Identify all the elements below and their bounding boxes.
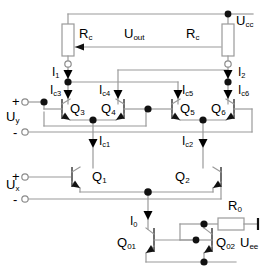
symbol-q5-collector-lead — [172, 99, 180, 104]
arrow-ic6 — [224, 90, 233, 99]
label-uy-plus: + — [12, 95, 20, 108]
terminal-ux-minus — [22, 196, 28, 202]
junction-tail-node — [144, 188, 152, 196]
label-q2: Q2 — [175, 170, 190, 185]
resistor-r0-body — [218, 218, 244, 230]
symbol-q6-collector-lead — [226, 99, 234, 104]
label-uy: Uy — [6, 110, 19, 125]
junction-base-bias — [193, 237, 200, 244]
arrow-ic3 — [64, 90, 73, 99]
junction-bottom-rail — [200, 258, 207, 265]
symbol-q02-collector-lead — [204, 228, 212, 234]
label-uout: Uout — [124, 27, 145, 42]
terminal-rc-left-tap — [65, 61, 71, 67]
label-q01: Q01 — [117, 236, 136, 251]
label-rc-left: Rc — [79, 27, 92, 42]
resistor-rc-left-body — [62, 24, 74, 56]
label-q1: Q1 — [92, 170, 107, 185]
symbol-q1-collector-lead — [72, 167, 80, 172]
junction-q5q6-emitter — [199, 116, 206, 123]
label-i1: I1 — [52, 66, 59, 79]
circuit-diagram: Ucc Rc Rc Uout I1 I2 Ic3 Ic4 Ic5 Ic6 Q3 … — [0, 0, 267, 275]
label-uee: Uee — [240, 236, 258, 251]
junction-q02-collector — [200, 220, 207, 227]
junction-ucc — [225, 11, 232, 18]
junction-q3q4-emitter — [89, 116, 96, 123]
junction-uy-plus-node — [40, 98, 47, 105]
label-q6: Q6 — [211, 102, 226, 117]
terminal-rc-right-tap — [225, 61, 231, 67]
arrow-i2 — [224, 70, 233, 79]
label-ic2: Ic2 — [182, 135, 193, 148]
label-ic1: Ic1 — [99, 135, 110, 148]
label-ux: Ux — [6, 178, 19, 193]
symbol-q4-collector-lead — [116, 99, 124, 104]
label-ucc: Ucc — [236, 14, 253, 29]
label-q02: Q02 — [216, 236, 235, 251]
arrow-ic4 — [114, 90, 123, 99]
junction-i1-node — [64, 78, 71, 85]
label-ic6: Ic6 — [238, 84, 249, 97]
arrow-uout — [75, 44, 84, 51]
label-q3: Q3 — [70, 102, 85, 117]
symbol-q2-collector-lead — [213, 167, 221, 172]
arrow-ic1 — [89, 139, 98, 148]
label-rc-right: Rc — [186, 27, 199, 42]
arrow-ic2 — [199, 139, 208, 148]
label-ic5: Ic5 — [182, 84, 193, 97]
label-ic3: Ic3 — [50, 84, 61, 97]
label-ux-minus: - — [13, 193, 17, 206]
symbol-q3-collector-lead — [62, 99, 70, 104]
terminal-ux-plus — [22, 174, 28, 180]
label-ic4: Ic4 — [99, 84, 110, 97]
terminal-uy-plus — [22, 99, 28, 105]
terminal-uy-minus — [22, 129, 28, 135]
arrow-i1 — [64, 70, 73, 79]
label-r0: R0 — [228, 199, 242, 214]
label-i2: I2 — [238, 66, 245, 79]
junction-q4q5-base-node — [144, 105, 151, 112]
resistor-rc-right-body — [222, 24, 234, 56]
label-q5: Q5 — [180, 102, 195, 117]
symbol-q01-collector-lead — [146, 228, 154, 234]
label-uy-minus: - — [13, 126, 17, 139]
junction-i2-node — [224, 78, 231, 85]
arrow-i0 — [144, 211, 153, 220]
label-i0: I0 — [130, 215, 137, 228]
label-q4: Q4 — [101, 102, 116, 117]
